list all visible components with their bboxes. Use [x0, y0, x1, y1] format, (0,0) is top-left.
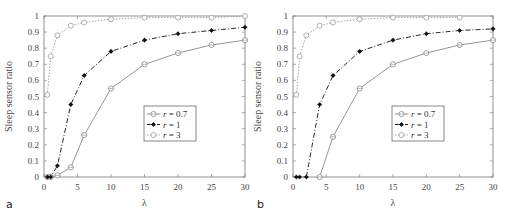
- y-tick-label: 1: [35, 11, 40, 21]
- panel-label: b: [257, 198, 264, 211]
- x-tick-label: 20: [174, 182, 184, 192]
- y-tick-label: 0.4: [28, 108, 40, 118]
- legend-entry: r = 1: [411, 120, 429, 130]
- y-axis-label: Sleep sensor ratio: [3, 61, 14, 132]
- y-tick-label: 0.1: [277, 156, 288, 166]
- x-axis-label: λ: [142, 197, 147, 208]
- y-tick-label: 0.6: [28, 75, 40, 85]
- x-tick-label: 0: [42, 182, 47, 192]
- series-r-3: [45, 14, 248, 98]
- legend-entry: r = 3: [163, 130, 181, 140]
- y-axis-label: Sleep sensor ratio: [252, 61, 263, 132]
- legend: r = 0.7r = 1r = 3: [144, 106, 196, 141]
- chart-panel-b: 05101520253000.10.20.30.40.50.60.70.80.9…: [252, 11, 498, 211]
- y-tick-label: 1: [284, 11, 289, 21]
- x-tick-label: 30: [489, 182, 499, 192]
- x-tick-label: 0: [291, 182, 296, 192]
- y-tick-label: 0.3: [28, 124, 40, 134]
- y-tick-label: 0: [284, 172, 289, 182]
- x-tick-label: 10: [355, 182, 365, 192]
- legend-entry: r = 3: [411, 130, 429, 140]
- y-tick-label: 0.4: [277, 108, 289, 118]
- chart-panel-a: 05101520253000.10.20.30.40.50.60.70.80.9…: [3, 11, 250, 211]
- x-tick-label: 5: [75, 182, 80, 192]
- series-r-1: [294, 26, 495, 179]
- legend-entry: r = 0.7: [163, 109, 188, 119]
- y-tick-label: 0.6: [277, 75, 289, 85]
- figure: 05101520253000.10.20.30.40.50.60.70.80.9…: [0, 0, 507, 221]
- y-tick-label: 0.9: [28, 27, 40, 37]
- series-r-3: [294, 15, 462, 97]
- x-tick-label: 5: [324, 182, 329, 192]
- y-tick-label: 0.2: [28, 140, 39, 150]
- y-tick-label: 0.1: [28, 156, 39, 166]
- y-tick-label: 0.7: [277, 59, 289, 69]
- y-tick-label: 0.3: [277, 124, 289, 134]
- x-tick-label: 25: [455, 182, 465, 192]
- y-tick-label: 0.5: [28, 92, 40, 102]
- y-tick-label: 0.7: [28, 59, 40, 69]
- x-axis-label: λ: [391, 197, 396, 208]
- y-tick-label: 0.2: [277, 140, 288, 150]
- x-tick-label: 30: [241, 182, 251, 192]
- x-tick-label: 10: [107, 182, 117, 192]
- x-tick-label: 20: [422, 182, 432, 192]
- y-tick-label: 0.5: [277, 92, 289, 102]
- y-tick-label: 0.9: [277, 27, 289, 37]
- x-tick-label: 15: [389, 182, 399, 192]
- y-tick-label: 0: [35, 172, 40, 182]
- y-tick-label: 0.8: [277, 43, 289, 53]
- x-tick-label: 25: [207, 182, 217, 192]
- x-tick-label: 15: [140, 182, 150, 192]
- legend: r = 0.7r = 1r = 3: [392, 106, 444, 141]
- legend-entry: r = 0.7: [411, 109, 436, 119]
- legend-entry: r = 1: [163, 120, 181, 130]
- y-tick-label: 0.8: [28, 43, 40, 53]
- panel-label: a: [6, 198, 13, 211]
